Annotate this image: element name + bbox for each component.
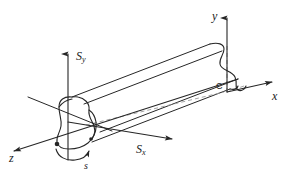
shear-y-axis-label-sub: y	[82, 55, 86, 64]
beam-upper-back-edge	[84, 51, 222, 104]
global-axes	[14, 18, 272, 151]
shear-y-axis-label: Sy	[76, 50, 86, 64]
x-axis-line	[227, 82, 272, 92]
y-axis-label: y	[212, 10, 217, 22]
section-auxiliary-axis	[28, 97, 112, 131]
centroid-label: C	[216, 82, 223, 91]
twist-origin-dot	[55, 142, 60, 147]
beam-bottom-edge	[92, 89, 230, 142]
x-axis-label: x	[272, 90, 277, 102]
shear-x-axis-label-sub: x	[142, 148, 146, 157]
z-axis-line	[14, 79, 238, 151]
beam-shear-centre-diagram: y x z Sy Sx C s	[0, 0, 291, 181]
z-axis-label: z	[9, 152, 14, 164]
shear-x-axis-label: Sx	[136, 143, 146, 157]
beam-top-edge	[72, 44, 210, 97]
twist-rotation-arrow	[56, 149, 89, 160]
centroid-hidden-line	[86, 92, 224, 125]
section-node-dot	[89, 137, 93, 141]
twist-arc	[56, 149, 89, 160]
twist-label: s	[84, 161, 88, 171]
prismatic-beam-body	[72, 44, 238, 142]
